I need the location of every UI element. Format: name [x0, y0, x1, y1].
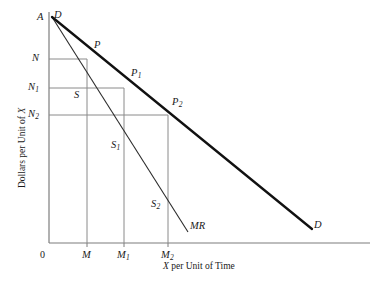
label-A: A — [37, 12, 43, 23]
label-S2-base: S — [151, 198, 156, 209]
label-D-top: D — [54, 10, 62, 21]
label-S1-sub: 1 — [117, 143, 121, 152]
y-tick-label-N2-sub: 2 — [35, 112, 39, 121]
y-tick-label-N1-base: N — [28, 81, 35, 92]
label-P1: P1 — [131, 68, 141, 79]
y-tick-label-N1: N1 — [28, 82, 39, 93]
y-axis-title-text: Dollars per Unit of — [17, 114, 27, 188]
origin-label: 0 — [40, 249, 45, 260]
label-P1-sub: 1 — [138, 71, 142, 80]
label-S2: S2 — [151, 199, 160, 210]
demand-line — [52, 17, 312, 229]
x-tick-label-M: M — [82, 250, 91, 261]
y-axis-title: Dollars per Unit of X — [18, 108, 28, 188]
y-tick-label-N: N — [32, 53, 39, 64]
y-tick-label-N2-base: N — [28, 108, 35, 119]
y-tick-label-N2: N2 — [28, 109, 39, 120]
x-axis-title: X per Unit of Time — [163, 262, 235, 272]
label-P2: P2 — [172, 97, 182, 108]
x-tick-label-M2-base: M — [161, 249, 170, 260]
label-P1-base: P — [131, 67, 137, 78]
figure-root: A D D MR P P1 P2 S S1 S2 N N1 N2 M M1 M2… — [0, 0, 386, 284]
label-D-end: D — [314, 220, 322, 231]
x-tick-label-M2: M2 — [161, 250, 174, 261]
label-P: P — [94, 40, 100, 51]
label-P2-sub: 2 — [179, 100, 183, 109]
x-tick-label-M1: M1 — [117, 250, 130, 261]
x-tick-label-M1-sub: 1 — [126, 253, 130, 262]
x-tick-label-M1-base: M — [117, 249, 126, 260]
x-axis-title-text: per Unit of Time — [169, 261, 235, 271]
x-axis-ticks — [87, 243, 168, 247]
y-tick-label-N1-sub: 1 — [35, 85, 39, 94]
diagram-canvas — [0, 0, 386, 284]
label-P2-base: P — [172, 96, 178, 107]
label-S: S — [74, 90, 79, 101]
y-axis-title-variable: X — [17, 108, 27, 114]
label-S1: S1 — [111, 140, 120, 151]
label-S2-sub: 2 — [157, 202, 161, 211]
label-MR: MR — [190, 221, 205, 232]
quantity-guide-lines — [87, 59, 168, 243]
label-S1-base: S — [111, 139, 116, 150]
